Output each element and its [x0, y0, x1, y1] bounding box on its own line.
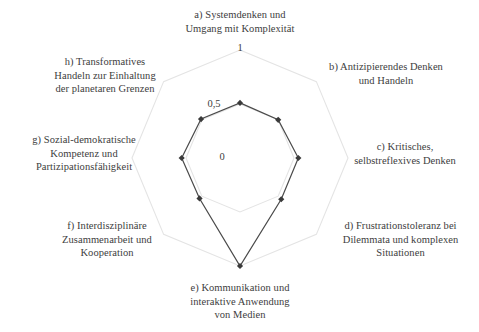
axis-label-f: f) Interdisziplinäre Zusammenarbeit und … — [28, 219, 186, 260]
axis-label-g: g) Sozial-demokratische Kompetenz und Pa… — [4, 133, 164, 174]
data-point-e — [237, 263, 243, 269]
axis-label-e: e) Kommunikation und interaktive Anwendu… — [152, 281, 328, 322]
axis-label-a: a) Systemdenken und Umgang mit Komplexit… — [152, 8, 328, 35]
axis-label-c: c) Kritisches, selbstreflexives Denken — [334, 140, 476, 167]
radial-tick-1: 1 — [226, 42, 254, 54]
data-point-h — [198, 116, 204, 122]
data-point-b — [275, 117, 281, 123]
data-point-c — [295, 155, 301, 161]
axis-label-h: h) Transformatives Handeln zur Einhaltun… — [22, 55, 188, 96]
axis-label-d: d) Frustrationstoleranz bei Dilemmata un… — [322, 219, 479, 260]
axis-label-b: b) Antizipierendes Denken und Handeln — [306, 60, 466, 87]
data-point-d — [278, 196, 284, 202]
data-point-g — [179, 155, 185, 161]
radial-tick-0-5: 0,5 — [200, 98, 228, 110]
radar-chart: a) Systemdenken und Umgang mit Komplexit… — [0, 0, 479, 332]
radial-tick-0: 0 — [208, 151, 236, 163]
